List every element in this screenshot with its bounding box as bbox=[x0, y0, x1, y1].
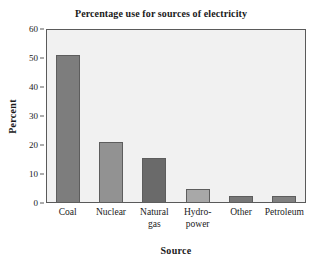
y-tick-mark bbox=[40, 87, 44, 88]
bar[interactable] bbox=[99, 142, 123, 203]
x-tick-label-line1: Hydro- bbox=[184, 207, 211, 217]
bar-slot bbox=[229, 29, 253, 203]
y-tick-mark bbox=[40, 58, 44, 59]
y-tick-label: 40 bbox=[29, 82, 38, 92]
bars-layer bbox=[46, 29, 306, 203]
bar[interactable] bbox=[186, 189, 210, 204]
bar[interactable] bbox=[56, 55, 80, 203]
y-tick-label: 10 bbox=[29, 169, 38, 179]
y-tick-label: 50 bbox=[29, 53, 38, 63]
x-tick-label: Naturalgas bbox=[133, 207, 176, 230]
x-tick-label-line2: gas bbox=[133, 219, 176, 231]
x-tick-label-line2: power bbox=[176, 219, 219, 231]
x-tick-label-line1: Natural bbox=[140, 207, 169, 217]
x-tick-label-line1: Coal bbox=[59, 207, 77, 217]
y-tick-label: 60 bbox=[29, 24, 38, 34]
y-tick-label: 20 bbox=[29, 140, 38, 150]
x-tick-label: Coal bbox=[46, 207, 89, 219]
y-tick-label: 0 bbox=[34, 198, 39, 208]
bar-slot bbox=[56, 29, 80, 203]
y-tick-label: 30 bbox=[29, 111, 38, 121]
x-axis-label: Source bbox=[46, 245, 306, 256]
chart-title: Percentage use for sources of electricit… bbox=[0, 8, 322, 19]
chart-figure: Percentage use for sources of electricit… bbox=[0, 0, 322, 267]
x-tick-label: Hydro-power bbox=[176, 207, 219, 230]
bar-slot bbox=[142, 29, 166, 203]
x-tick-label: Petroleum bbox=[263, 207, 306, 219]
x-tick-label: Other bbox=[219, 207, 262, 219]
bar[interactable] bbox=[272, 196, 296, 203]
x-axis-tick-labels: CoalNuclearNaturalgasHydro-powerOtherPet… bbox=[46, 207, 306, 241]
y-tick-mark bbox=[40, 116, 44, 117]
x-tick-label-line1: Petroleum bbox=[265, 207, 304, 217]
x-tick-label-line1: Nuclear bbox=[96, 207, 126, 217]
y-tick-mark bbox=[40, 174, 44, 175]
bar[interactable] bbox=[142, 158, 166, 203]
x-tick-label-line1: Other bbox=[230, 207, 252, 217]
bar-slot bbox=[272, 29, 296, 203]
y-axis-ticks: 0102030405060 bbox=[0, 29, 44, 203]
x-tick-label: Nuclear bbox=[89, 207, 132, 219]
y-tick-mark bbox=[40, 203, 44, 204]
bar-slot bbox=[99, 29, 123, 203]
y-tick-mark bbox=[40, 145, 44, 146]
y-tick-mark bbox=[40, 29, 44, 30]
bar-slot bbox=[186, 29, 210, 203]
bar[interactable] bbox=[229, 196, 253, 203]
